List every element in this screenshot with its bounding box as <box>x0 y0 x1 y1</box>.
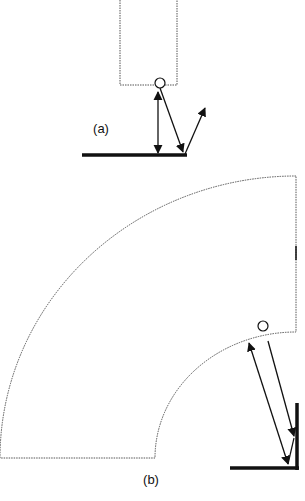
source-circle-b <box>258 321 268 331</box>
reflected-segment-b <box>288 438 294 464</box>
incident-arrow-b <box>268 341 294 436</box>
incident-arrow-a <box>160 88 183 152</box>
panel-b <box>0 176 299 470</box>
curved-duct-outline <box>0 176 296 458</box>
straight-duct-outline <box>120 0 177 85</box>
panel-a-label: (a) <box>93 121 109 136</box>
reflected-arrow-a <box>185 108 205 154</box>
diagram-canvas <box>0 0 305 501</box>
source-circle-a <box>155 78 165 88</box>
double-arrow-b <box>249 343 288 464</box>
panel-b-label: (b) <box>143 472 159 487</box>
